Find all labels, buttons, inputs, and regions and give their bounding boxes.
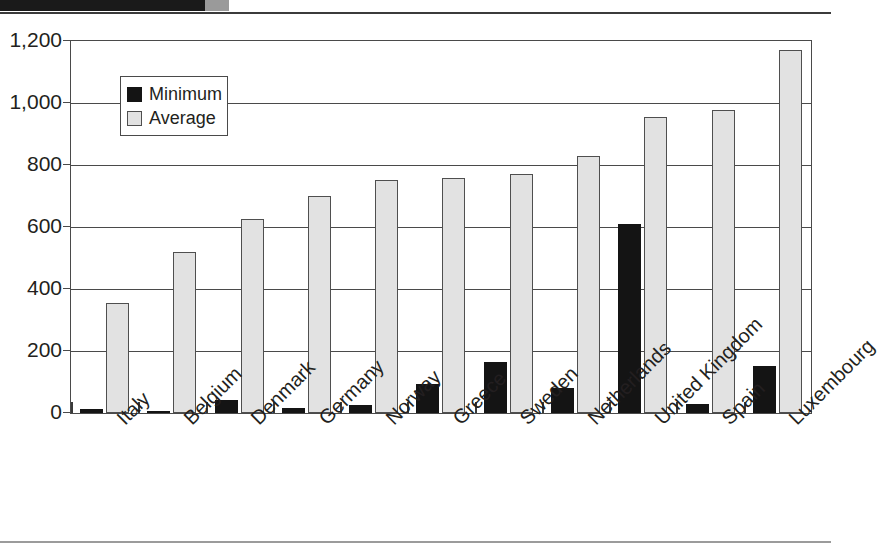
- footer-divider: [0, 541, 831, 543]
- y-axis-tick-mark: [63, 226, 70, 227]
- legend-item[interactable]: Average: [127, 106, 221, 130]
- y-axis-tick-label: 200: [27, 339, 62, 360]
- bar-minimum[interactable]: [349, 405, 372, 413]
- bar-average[interactable]: [577, 156, 600, 413]
- bar-group: [542, 41, 609, 413]
- legend-swatch-average: [127, 111, 142, 126]
- bar-group: [273, 41, 340, 413]
- bar-group: [744, 41, 811, 413]
- y-axis-tick-label: 800: [27, 153, 62, 174]
- y-axis-tick-mark: [63, 412, 70, 413]
- y-axis-tick-label: 400: [27, 277, 62, 298]
- legend-swatch-minimum: [127, 87, 142, 102]
- y-axis-tick-mark: [63, 102, 70, 103]
- y-axis-tick-label: 0: [50, 401, 62, 422]
- bar-group: [407, 41, 474, 413]
- bar-average[interactable]: [442, 178, 465, 413]
- bar-average[interactable]: [510, 174, 533, 413]
- y-axis-tick-label: 1,200: [9, 29, 62, 50]
- y-axis-tick-label: 1,000: [9, 91, 62, 112]
- bar-average[interactable]: [241, 219, 264, 413]
- bar-minimum[interactable]: [80, 409, 103, 413]
- x-axis-tick-mark: [71, 402, 73, 413]
- bar-average[interactable]: [106, 303, 129, 413]
- bar-average[interactable]: [173, 252, 196, 413]
- y-axis: 02004006008001,0001,200: [0, 40, 62, 412]
- bar-average[interactable]: [308, 196, 331, 413]
- x-axis-labels: ItalyBelgiumDenmarkGermanyNorwayGreeceSw…: [71, 414, 811, 524]
- bar-minimum[interactable]: [282, 408, 305, 413]
- legend-item[interactable]: Minimum: [127, 82, 221, 106]
- chart-legend: MinimumAverage: [120, 76, 228, 136]
- bar-group: [475, 41, 542, 413]
- bar-average[interactable]: [779, 50, 802, 413]
- y-axis-tick-mark: [63, 40, 70, 41]
- page-header-bar: [0, 0, 205, 11]
- y-axis-tick-mark: [63, 164, 70, 165]
- y-axis-tick-label: 600: [27, 215, 62, 236]
- bar-chart: 02004006008001,0001,200 ItalyBelgiumDenm…: [0, 14, 831, 534]
- legend-label: Minimum: [149, 85, 222, 103]
- y-axis-tick-mark: [63, 288, 70, 289]
- y-axis-tick-mark: [63, 350, 70, 351]
- bar-minimum[interactable]: [147, 411, 170, 413]
- legend-label: Average: [149, 109, 216, 127]
- page-header-tab: [205, 0, 229, 11]
